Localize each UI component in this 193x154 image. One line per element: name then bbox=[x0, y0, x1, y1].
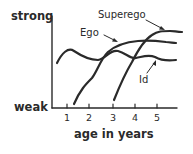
superego-label: Superego bbox=[98, 10, 146, 20]
x-tick-label-4: 4 bbox=[132, 113, 138, 123]
y-label-strong: strong bbox=[11, 11, 53, 23]
id-label: Id bbox=[139, 75, 148, 85]
ego-curve bbox=[74, 41, 176, 104]
x-axis-label: age in years bbox=[74, 129, 154, 141]
ego-label: Ego bbox=[80, 28, 99, 38]
ego-arrowhead bbox=[112, 38, 118, 42]
superego-arrowhead bbox=[159, 26, 165, 30]
x-tick-label-5: 5 bbox=[154, 113, 160, 123]
x-tick-label-1: 1 bbox=[64, 113, 70, 123]
y-label-weak: weak bbox=[14, 102, 48, 114]
id-curve bbox=[57, 50, 176, 63]
x-tick-label-3: 3 bbox=[110, 113, 116, 123]
x-tick-label-2: 2 bbox=[86, 113, 92, 123]
